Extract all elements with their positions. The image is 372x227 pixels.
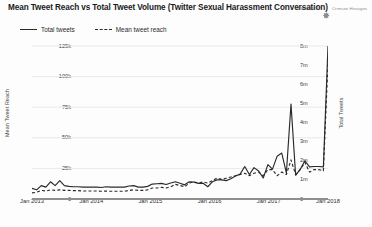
y-axis-right-title: Total Tweets — [338, 58, 344, 168]
chart-header: Mean Tweet Reach vs Total Tweet Volume (… — [0, 0, 372, 19]
series-line-mean-tweet-reach — [32, 62, 328, 193]
legend-label-mean-tweet-reach: Mean tweet reach — [116, 26, 167, 33]
chart-screenshot: Mean Tweet Reach vs Total Tweet Volume (… — [0, 0, 372, 227]
plot-area-wrapper: Mean Tweet Reach Total Tweets 025k50k75k… — [0, 36, 372, 211]
legend-swatch-dashed-icon — [95, 27, 112, 32]
gridlines — [32, 46, 328, 199]
series-layer — [32, 46, 328, 193]
legend-swatch-solid-icon — [20, 27, 37, 32]
chart-canvas — [32, 44, 328, 201]
chart-legend: Total tweets Mean tweet reach — [20, 26, 167, 33]
y-axis-left-title: Mean Tweet Reach — [4, 58, 10, 168]
plot-area — [32, 44, 328, 201]
legend-label-total-tweets: Total tweets — [41, 26, 75, 33]
brand-attribution: Powered by Crimson Hexagon — [295, 5, 367, 12]
brand-name: Crimson Hexagon — [332, 6, 367, 11]
page-title: Mean Tweet Reach vs Total Tweet Volume (… — [8, 3, 328, 12]
legend-item-total-tweets[interactable]: Total tweets — [20, 26, 75, 33]
gear-icon — [323, 5, 330, 12]
legend-item-mean-tweet-reach[interactable]: Mean tweet reach — [95, 26, 167, 33]
powered-by-label: Powered by — [295, 7, 321, 11]
